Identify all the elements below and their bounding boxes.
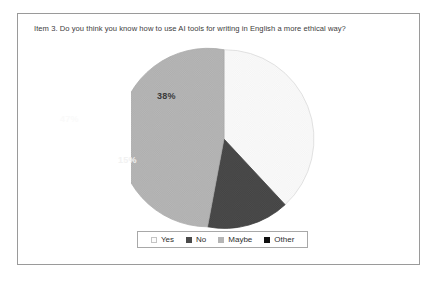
legend-label-no: No <box>196 236 206 244</box>
legend-label-other: Other <box>274 236 294 244</box>
pie-svg <box>131 46 317 232</box>
chart-legend: Yes No Maybe Other <box>137 231 308 248</box>
legend-item-no[interactable]: No <box>186 236 206 244</box>
pie-label-no: 15% <box>118 155 137 165</box>
pie-label-yes: 38% <box>157 91 176 101</box>
pie-chart: 38% 15% 47% <box>18 14 421 266</box>
legend-label-yes: Yes <box>161 236 174 244</box>
legend-swatch-other <box>264 237 270 243</box>
legend-item-other[interactable]: Other <box>264 236 294 244</box>
legend-swatch-yes <box>151 237 157 243</box>
legend-swatch-no <box>186 237 192 243</box>
chart-frame: Item 3. Do you think you know how to use… <box>17 13 420 265</box>
legend-item-yes[interactable]: Yes <box>151 236 174 244</box>
legend-item-maybe[interactable]: Maybe <box>218 236 252 244</box>
pie-slice-maybe <box>131 48 224 227</box>
legend-label-maybe: Maybe <box>228 236 252 244</box>
legend-swatch-maybe <box>218 237 224 243</box>
pie-label-maybe: 47% <box>60 114 79 124</box>
